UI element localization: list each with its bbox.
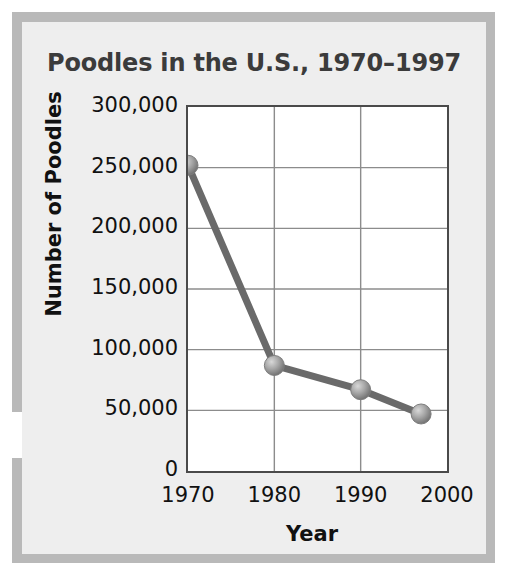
data-point-sphere [264, 355, 284, 375]
x-axis-title: Year [162, 522, 462, 546]
x-tick-label: 1980 [229, 483, 319, 507]
plot-svg [188, 107, 447, 471]
x-tick-label: 1990 [316, 483, 406, 507]
data-point-marker [188, 155, 198, 175]
y-tick-label: 200,000 [38, 214, 178, 238]
chart-panel: Poodles in the U.S., 1970–1997 Number of… [22, 22, 486, 554]
y-tick-label: 100,000 [38, 336, 178, 360]
y-axis-tick-labels: 050,000100,000150,000200,000250,000300,0… [26, 22, 178, 554]
y-tick-label: 300,000 [38, 93, 178, 117]
data-point-sphere [351, 380, 371, 400]
plot-area [186, 105, 449, 473]
figure-frame: Poodles in the U.S., 1970–1997 Number of… [0, 0, 507, 575]
x-tick-label: 2000 [402, 483, 492, 507]
x-tick-label: 1970 [143, 483, 233, 507]
y-tick-label: 0 [38, 457, 178, 481]
data-point-marker [351, 380, 371, 400]
y-tick-label: 50,000 [38, 396, 178, 420]
y-tick-label: 250,000 [38, 154, 178, 178]
data-point-marker [264, 355, 284, 375]
data-point-sphere [188, 155, 198, 175]
data-point-marker [411, 404, 431, 424]
y-tick-label: 150,000 [38, 275, 178, 299]
data-point-sphere [411, 404, 431, 424]
